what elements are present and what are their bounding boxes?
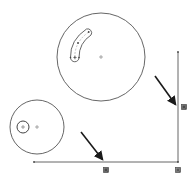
arrow-to-horizontal-line [81, 132, 103, 160]
line-end-point[interactable] [177, 51, 179, 53]
slot-center-icon [73, 56, 77, 60]
slot-mid-point[interactable] [77, 42, 79, 44]
horizontal-relation-icon[interactable] [104, 168, 109, 173]
inner-circle[interactable] [17, 121, 29, 133]
arc-slot[interactable] [70, 29, 92, 62]
slot-edge-point[interactable] [70, 57, 72, 59]
coincident-relation-icon[interactable] [176, 168, 181, 173]
slot-edge-point[interactable] [78, 57, 80, 59]
sketch-svg [0, 0, 194, 180]
small-circle[interactable] [10, 100, 64, 154]
slot-end-point[interactable] [88, 31, 90, 33]
small-circle-center-icon [35, 125, 39, 129]
corner-point[interactable] [177, 161, 179, 163]
arrow-to-vertical-line [155, 76, 176, 105]
horizontal-line[interactable] [33, 161, 179, 163]
vertical-relation-icon[interactable] [182, 105, 187, 110]
line-end-point[interactable] [33, 161, 35, 163]
inner-circle-center-icon [21, 125, 25, 129]
big-circle-center-icon [99, 55, 103, 59]
vertical-line[interactable] [177, 51, 179, 162]
sketch-canvas[interactable] [0, 0, 194, 180]
